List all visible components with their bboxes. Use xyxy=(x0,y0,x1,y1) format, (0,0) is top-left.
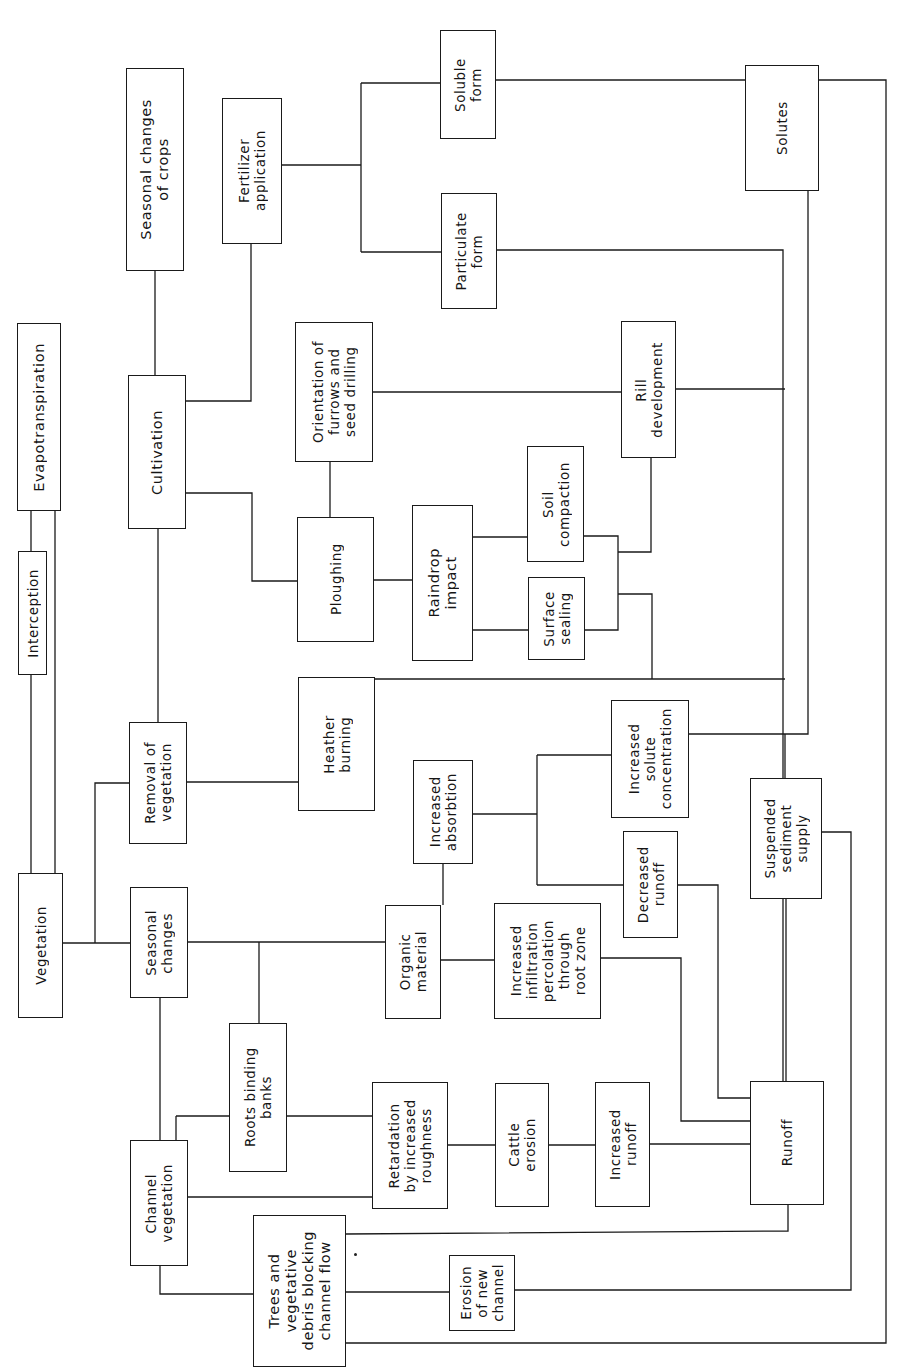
node-label: Surface sealing xyxy=(541,591,573,647)
connector-line xyxy=(584,536,618,630)
node-label: Erosion of new channel xyxy=(458,1264,506,1322)
node-raindrop-impact: Raindrop impact xyxy=(412,505,473,661)
connector-line xyxy=(346,1205,788,1234)
node-label: Increased runoff xyxy=(607,1109,639,1180)
node-label: Roots binding banks xyxy=(242,1047,274,1147)
connector-line xyxy=(185,243,251,401)
node-label: Removal of vegetation xyxy=(142,742,174,824)
node-suspended-sediment-supply: Suspended sediment supply xyxy=(750,778,822,899)
node-label: Increased solute concentration xyxy=(626,708,674,809)
node-increased-solute-concentration: Increased solute concentration xyxy=(611,700,689,818)
node-label: Ploughing xyxy=(328,543,344,615)
node-label: Solutes xyxy=(774,101,790,155)
node-ploughing: Ploughing xyxy=(297,517,374,642)
node-channel-vegetation: Channel vegetation xyxy=(130,1140,188,1266)
node-label: Fertilizer application xyxy=(236,130,268,211)
node-label: Decreased runoff xyxy=(635,846,667,923)
node-label: Trees and vegetative debris blocking cha… xyxy=(266,1231,334,1350)
node-seasonal-changes: Seasonal changes xyxy=(130,887,188,998)
node-heather-burning: Heather burning xyxy=(298,677,375,811)
stray-dot-mark xyxy=(354,1253,357,1256)
node-retardation: Retardation by increased roughness xyxy=(372,1082,448,1209)
node-organic-material: Organic material xyxy=(385,905,441,1019)
node-rill-development: Rill development xyxy=(621,321,676,458)
node-label: Suspended sediment supply xyxy=(762,798,810,878)
node-label: Seasonal changes of crops xyxy=(138,99,172,240)
node-cattle-erosion: Cattle erosion xyxy=(495,1083,549,1207)
node-fertilizer-application: Fertilizer application xyxy=(222,98,282,244)
node-label: Increased absorbtion xyxy=(427,773,459,851)
node-label: Heather burning xyxy=(321,715,353,774)
node-soluble-form: Soluble form xyxy=(440,30,496,139)
connector-line xyxy=(678,885,750,1098)
connector-line xyxy=(618,457,651,552)
connector-line xyxy=(95,783,129,943)
node-label: Retardation by increased roughness xyxy=(386,1099,434,1193)
node-increased-runoff: Increased runoff xyxy=(595,1082,650,1207)
node-increased-infiltration: Increased infiltration percolation throu… xyxy=(494,903,601,1019)
node-soil-compaction: Soil compaction xyxy=(527,446,584,562)
node-label: Rill development xyxy=(633,342,665,438)
node-label: Channel vegetation xyxy=(143,1164,175,1243)
node-label: Raindrop impact xyxy=(426,548,460,618)
node-roots-binding-banks: Roots binding banks xyxy=(229,1023,287,1172)
node-surface-sealing: Surface sealing xyxy=(528,577,585,660)
node-removal-of-vegetation: Removal of vegetation xyxy=(129,722,187,844)
node-label: Interception xyxy=(25,569,41,658)
node-label: Vegetation xyxy=(33,906,49,985)
node-decreased-runoff: Decreased runoff xyxy=(623,831,678,938)
connector-line xyxy=(160,1265,253,1294)
node-solutes: Solutes xyxy=(745,65,819,191)
node-label: Organic material xyxy=(397,931,429,992)
node-label: Cultivation xyxy=(149,410,166,495)
node-label: Orientation of furrows and seed drilling xyxy=(310,341,358,443)
node-label: Soil compaction xyxy=(540,462,572,547)
node-evapotranspiration: Evapotranspiration xyxy=(17,323,61,511)
node-label: Evapotranspiration xyxy=(31,343,48,492)
node-increased-absorbtion: Increased absorbtion xyxy=(413,760,473,864)
node-label: Particulate form xyxy=(453,212,485,291)
node-orientation-of-furrows: Orientation of furrows and seed drilling xyxy=(295,322,373,462)
node-vegetation: Vegetation xyxy=(18,873,63,1018)
node-particulate-form: Particulate form xyxy=(441,193,497,309)
connector-line xyxy=(515,832,851,1290)
node-interception: Interception xyxy=(18,551,47,675)
node-label: Cattle erosion xyxy=(506,1118,538,1172)
node-label: Soluble form xyxy=(452,58,484,112)
node-seasonal-changes-of-crops: Seasonal changes of crops xyxy=(126,68,184,271)
connector-line xyxy=(618,594,652,679)
node-erosion-of-new-channel: Erosion of new channel xyxy=(449,1255,515,1331)
node-label: Increased infiltration percolation throu… xyxy=(508,920,588,1002)
node-cultivation: Cultivation xyxy=(128,375,186,529)
node-runoff: Runoff xyxy=(750,1081,824,1205)
node-trees-debris: Trees and vegetative debris blocking cha… xyxy=(253,1215,346,1367)
node-label: Seasonal changes xyxy=(143,910,175,976)
connector-line xyxy=(688,190,808,734)
connector-line xyxy=(186,493,297,581)
node-label: Runoff xyxy=(779,1119,795,1166)
